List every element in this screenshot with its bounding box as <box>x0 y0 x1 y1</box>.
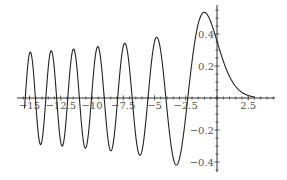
x-tick-label: 2.5 <box>240 100 256 111</box>
x-tick-label: −7.5 <box>111 100 135 111</box>
y-tick-label: 0.2 <box>198 61 214 72</box>
x-tick-label: −15 <box>19 100 40 111</box>
airy-function-chart: −15−12.5−10−7.5−5−2.52.5 0.40.2−0.2−0.4 <box>0 0 287 180</box>
x-tick-label: −12.5 <box>45 100 76 111</box>
y-tick-label: 0.4 <box>198 29 214 40</box>
y-tick-label: −0.4 <box>190 157 214 168</box>
airy-curve <box>25 12 255 165</box>
x-tick-label: −10 <box>81 100 102 111</box>
x-tick-label: −5 <box>147 100 162 111</box>
x-tick-label: −2.5 <box>174 100 198 111</box>
y-tick-label: −0.2 <box>190 125 214 136</box>
